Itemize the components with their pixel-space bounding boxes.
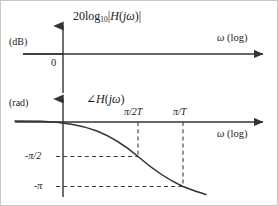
magnitude-title-arg-omega: ω <box>126 9 134 23</box>
phase-x-axis-label: ω (log) <box>217 129 247 140</box>
magnitude-title-func: H <box>110 9 119 23</box>
phase-title-arg-omega: ω <box>112 92 120 106</box>
tick0-den: /2 <box>129 106 137 117</box>
tick0-T: T <box>137 106 143 117</box>
phase-title-angle: ∠ <box>86 92 96 106</box>
phase-x-axis-omega: ω <box>217 128 224 139</box>
magnitude-origin-label: 0 <box>51 58 56 69</box>
ytick1-pi: π <box>37 180 42 191</box>
phase-title-paren-close: ) <box>121 92 125 106</box>
phase-y-tick-label-minus-pi: -π <box>34 181 42 191</box>
magnitude-title-prefix: 20log <box>73 9 100 23</box>
magnitude-x-axis-omega: ω <box>217 32 224 43</box>
magnitude-unit-label: (dB) <box>9 37 27 47</box>
phase-plot-title: ∠H(jω) <box>86 93 125 105</box>
phase-x-axis-scale: (log) <box>227 128 247 139</box>
magnitude-title-subscript: 10 <box>100 15 108 24</box>
magnitude-x-axis-label: ω (log) <box>217 33 247 44</box>
ytick0-rest: /2 <box>33 150 41 161</box>
phase-response-curve <box>15 121 206 195</box>
phase-x-tick-label-pi-over-T: π/T <box>173 107 186 117</box>
magnitude-plot-title: 20log10|H(jω)| <box>73 10 141 23</box>
tick1-T: T <box>181 106 187 117</box>
phase-title-func: H <box>96 92 105 106</box>
magnitude-title-bar-close: | <box>139 9 141 23</box>
magnitude-x-axis-scale: (log) <box>227 32 247 43</box>
phase-x-tick-label-pi-over-2T: π/2T <box>124 107 142 117</box>
phase-unit-label: (rad) <box>9 98 28 108</box>
phase-y-tick-label-minus-pi-over-2: -π/2 <box>25 151 41 161</box>
bode-plot-figure: (dB) 20log10|H(jω)| 0 ω (log) (rad) ∠H(j… <box>0 0 278 206</box>
